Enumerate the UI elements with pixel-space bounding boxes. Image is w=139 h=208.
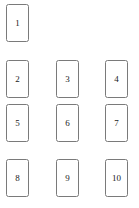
diagram-canvas: 1 2 3 4 5 6 7 8 9 10	[0, 0, 139, 208]
node-label: 3	[65, 75, 70, 84]
node-box-7[interactable]: 7	[105, 104, 128, 142]
node-box-3[interactable]: 3	[56, 60, 79, 98]
node-label: 6	[65, 119, 70, 128]
node-label: 1	[15, 19, 20, 28]
node-label: 8	[15, 174, 20, 183]
node-label: 10	[112, 174, 121, 183]
node-box-10[interactable]: 10	[105, 159, 128, 197]
node-label: 5	[15, 119, 20, 128]
node-label: 4	[114, 75, 119, 84]
node-box-2[interactable]: 2	[6, 60, 29, 98]
node-label: 7	[114, 119, 119, 128]
node-label: 9	[65, 174, 70, 183]
node-label: 2	[15, 75, 20, 84]
node-box-4[interactable]: 4	[105, 60, 128, 98]
node-box-8[interactable]: 8	[6, 159, 29, 197]
node-box-6[interactable]: 6	[56, 104, 79, 142]
node-box-9[interactable]: 9	[56, 159, 79, 197]
node-box-1[interactable]: 1	[6, 4, 29, 42]
node-box-5[interactable]: 5	[6, 104, 29, 142]
